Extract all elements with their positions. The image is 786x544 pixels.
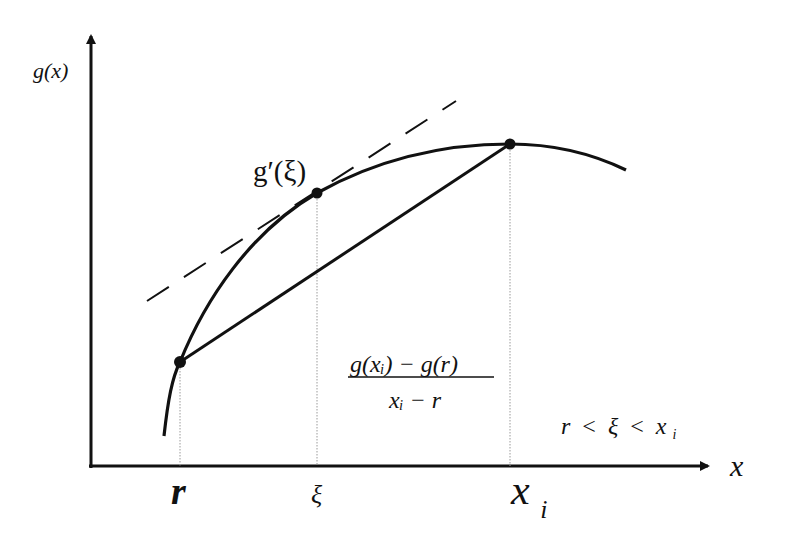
inequality-label: r < ξ < x i xyxy=(561,413,676,442)
svg-text:x i: x i xyxy=(510,467,547,524)
secant-denominator: xᵢ − r xyxy=(388,387,442,413)
tick-label-xi: ξ xyxy=(311,480,323,509)
secant-numerator: g(xᵢ) − g(r) xyxy=(350,351,458,377)
point-r xyxy=(174,356,186,368)
point-x-i xyxy=(505,139,516,150)
mean-value-theorem-diagram: g(x) x g′(ξ) g(xᵢ) − g(r) xᵢ − r r < ξ <… xyxy=(0,0,786,544)
svg-text:r < ξ <: r < ξ < x i xyxy=(561,413,676,442)
x-axis-label: x xyxy=(729,449,744,482)
tangent-slope-label: g′(ξ) xyxy=(253,155,306,188)
tick-label-x-i: x i xyxy=(510,467,547,524)
tick-label-r: r xyxy=(171,470,187,512)
point-xi xyxy=(312,188,323,199)
y-axis-label: g(x) xyxy=(33,58,68,83)
secant-line xyxy=(180,144,510,362)
